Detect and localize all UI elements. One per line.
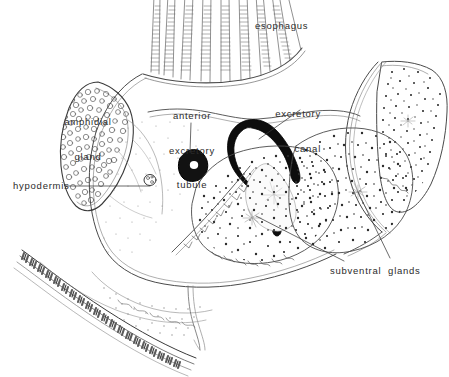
label-excretory-canal-line2: canal: [255, 143, 321, 155]
label-amphidial-gland-line2: gland: [46, 151, 130, 163]
label-excretory-canal: excretory canal: [255, 85, 321, 177]
label-anterior-excretory-tubule: anterior excretory tubule: [155, 87, 229, 214]
label-subventral-glands: subventral glands: [330, 265, 421, 277]
esophagus-structure: [143, 0, 305, 87]
esophagus-striation: [151, 6, 292, 70]
esophagus-fiber: [151, 0, 301, 82]
label-excretory-canal-line1: excretory: [255, 108, 321, 120]
label-anterior-excretory-tubule-line1: anterior: [155, 110, 229, 122]
label-hypodermis: hypodermis: [13, 180, 70, 192]
cuticle-band: [14, 250, 196, 376]
label-esophagus: esophagus: [255, 20, 308, 32]
lower-body-region: [40, 262, 212, 336]
gland-nucleus: [401, 115, 415, 127]
cuticle-striation: [22, 253, 180, 368]
diagram-ink: [14, 0, 447, 376]
body-wall-right: [344, 62, 390, 256]
label-amphidial-gland-line1: amphidial: [46, 116, 130, 128]
label-anterior-excretory-tubule-line2: excretory: [155, 145, 229, 157]
anatomical-diagram: esophagus amphidial gland anterior excre…: [0, 0, 449, 377]
excretory-duct: [188, 286, 205, 350]
label-anterior-excretory-tubule-line3: tubule: [155, 179, 229, 191]
label-amphidial-gland: amphidial gland: [46, 93, 130, 185]
